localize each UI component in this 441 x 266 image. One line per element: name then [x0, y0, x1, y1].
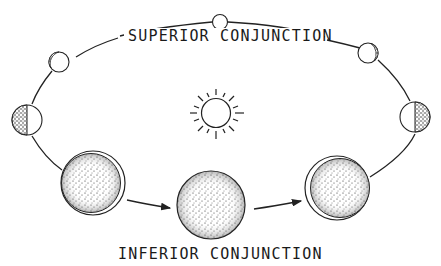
planet-lower-left-crescent [61, 151, 125, 215]
planet-lower-right-crescent [305, 156, 370, 220]
sun-icon [190, 89, 244, 139]
planet-left-half [12, 105, 42, 135]
planet-right-half [400, 102, 430, 132]
arrow-inferior-to-right [254, 201, 301, 209]
label-superior-conjunction: SUPERIOR CONJUNCTION [128, 27, 333, 45]
planet-upper-left [49, 52, 69, 72]
label-inferior-conjunction: INFERIOR CONJUNCTION [118, 245, 323, 263]
arrow-left-to-inferior [127, 200, 170, 208]
planet-inferior-conjunction [177, 171, 245, 239]
planet-upper-right [358, 43, 378, 63]
orbit-diagram: SUPERIOR CONJUNCTION INFERIOR CONJUNCTIO… [0, 0, 441, 266]
